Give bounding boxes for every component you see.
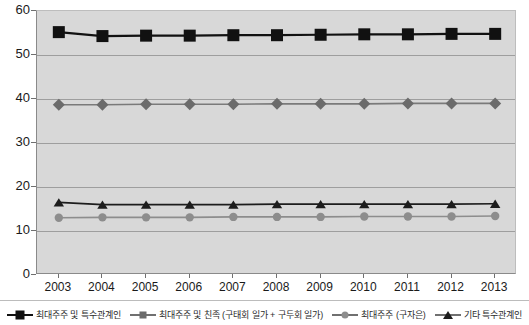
- x-axis-tick-label: 2005: [121, 280, 169, 294]
- x-axis-tick-label: 2013: [470, 280, 518, 294]
- legend-marker-glyph: [342, 312, 349, 319]
- x-axis-tick: [145, 274, 146, 278]
- series-3: [54, 198, 501, 209]
- chart-legend: 최대주주 및 특수관계인최대주주 및 친족 (구태회 일가 + 구두회 일가)최…: [0, 305, 529, 325]
- x-axis-tick-label: 2007: [208, 280, 256, 294]
- legend-item-1[interactable]: 최대주주 및 친족 (구태회 일가 + 구두회 일가): [130, 309, 324, 321]
- data-point-square: [402, 28, 414, 40]
- data-point-square: [489, 28, 501, 40]
- data-point-diamond: [402, 97, 414, 109]
- data-point-diamond: [271, 98, 283, 110]
- data-point-diamond: [227, 98, 239, 110]
- x-axis-tick-label: 2010: [339, 280, 387, 294]
- x-axis-tick-label: 2008: [252, 280, 300, 294]
- data-point-diamond: [489, 97, 501, 109]
- x-axis-tick-label: 2004: [77, 280, 125, 294]
- data-point-square: [53, 26, 65, 38]
- x-axis-tick: [320, 274, 321, 278]
- legend-item-3[interactable]: 기타 특수관계인: [435, 309, 523, 321]
- y-axis-tick-label: 0: [0, 267, 30, 280]
- series-layer: [37, 11, 517, 275]
- data-point-circle: [273, 213, 281, 221]
- series-1: [53, 97, 501, 110]
- data-point-circle: [186, 213, 194, 221]
- x-axis-tick: [189, 274, 190, 278]
- x-axis-tick-label: 2011: [383, 280, 431, 294]
- data-point-circle: [316, 213, 324, 221]
- x-axis-tick: [276, 274, 277, 278]
- data-point-circle: [55, 214, 63, 222]
- legend-marker-triangle-icon: [435, 309, 461, 321]
- plot-area: [36, 10, 516, 274]
- x-axis-tick: [101, 274, 102, 278]
- data-point-circle: [491, 212, 499, 220]
- x-axis-tick: [494, 274, 495, 278]
- clipped-header-text: [330, 0, 529, 9]
- data-point-circle: [229, 213, 237, 221]
- legend-marker-diamond-icon: [130, 309, 156, 321]
- data-point-square: [315, 29, 327, 41]
- legend-marker-circle-icon: [332, 309, 358, 321]
- data-point-circle: [98, 213, 106, 221]
- data-point-square: [184, 30, 196, 42]
- data-point-diamond: [315, 98, 327, 110]
- x-axis-tick: [451, 274, 452, 278]
- data-point-diamond: [446, 97, 458, 109]
- legend-marker-square-icon: [7, 309, 33, 321]
- y-axis-tick-label: 50: [0, 47, 30, 60]
- legend-label: 최대주주 (구자은): [361, 310, 426, 321]
- data-point-diamond: [53, 99, 65, 111]
- data-point-square: [227, 29, 239, 41]
- data-point-diamond: [358, 98, 370, 110]
- data-point-square: [358, 28, 370, 40]
- series-2: [55, 212, 500, 222]
- data-point-circle: [142, 213, 150, 221]
- data-point-circle: [404, 212, 412, 220]
- legend-label: 최대주주 및 특수관계인: [36, 310, 121, 321]
- x-axis-tick-label: 2012: [427, 280, 475, 294]
- y-axis-tick-label: 60: [0, 3, 30, 16]
- data-point-circle: [360, 212, 368, 220]
- y-axis-tick-label: 20: [0, 179, 30, 192]
- x-axis-tick-label: 2003: [34, 280, 82, 294]
- y-axis-tick: [31, 274, 36, 275]
- data-point-diamond: [140, 98, 152, 110]
- legend-marker-glyph: [139, 312, 146, 319]
- x-axis-tick: [363, 274, 364, 278]
- legend-item-2[interactable]: 최대주주 (구자은): [332, 309, 426, 321]
- legend-label: 기타 특수관계인: [464, 310, 523, 321]
- series-0: [53, 26, 501, 42]
- y-axis-tick-label: 40: [0, 91, 30, 104]
- legend-marker-glyph: [443, 311, 453, 319]
- data-point-square: [271, 29, 283, 41]
- data-point-square: [96, 30, 108, 42]
- legend-divider: [0, 300, 529, 301]
- chart-container: 0102030405060 20032004200520062007200820…: [0, 0, 529, 325]
- data-point-square: [140, 30, 152, 42]
- data-point-circle: [447, 212, 455, 220]
- y-axis-tick-label: 30: [0, 135, 30, 148]
- x-axis-tick: [232, 274, 233, 278]
- x-axis-tick-label: 2009: [296, 280, 344, 294]
- x-axis-tick-label: 2006: [165, 280, 213, 294]
- legend-item-0[interactable]: 최대주주 및 특수관계인: [7, 309, 121, 321]
- legend-marker-glyph: [15, 311, 24, 320]
- data-point-diamond: [96, 99, 108, 111]
- legend-label: 최대주주 및 친족 (구태회 일가 + 구두회 일가): [159, 310, 324, 321]
- data-point-diamond: [184, 98, 196, 110]
- data-point-square: [446, 28, 458, 40]
- x-axis-tick: [407, 274, 408, 278]
- y-axis-tick-label: 10: [0, 223, 30, 236]
- x-axis-tick: [58, 274, 59, 278]
